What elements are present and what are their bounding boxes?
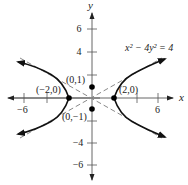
y-axis-label: y	[87, 0, 93, 11]
label-bottom-point: (0,−1)	[62, 111, 87, 123]
label-right-vertex: (2,0)	[119, 84, 138, 96]
point-bottom	[89, 106, 95, 112]
point-top	[89, 84, 95, 90]
x-axis-label: x	[178, 91, 184, 103]
y-tick-label-6: 6	[77, 23, 82, 34]
equation-label: x² − 4y² = 4	[124, 42, 173, 53]
y-tick-label-neg4: −4	[73, 137, 84, 148]
point-left-vertex	[66, 95, 72, 101]
x-tick-label-6: 6	[155, 104, 160, 115]
label-top-point: (0,1)	[66, 74, 85, 86]
label-left-vertex: (−2,0)	[36, 84, 61, 96]
y-tick-label-neg6: −6	[73, 159, 84, 170]
point-right-vertex	[111, 95, 117, 101]
x-tick-label-neg6: −6	[17, 104, 28, 115]
hyperbola-plot: x y −6 6 6 4 −4 −6 (2,0) (−2,0) (0,1) (0…	[0, 0, 188, 185]
y-tick-label-4: 4	[77, 46, 82, 57]
axes	[8, 13, 173, 180]
